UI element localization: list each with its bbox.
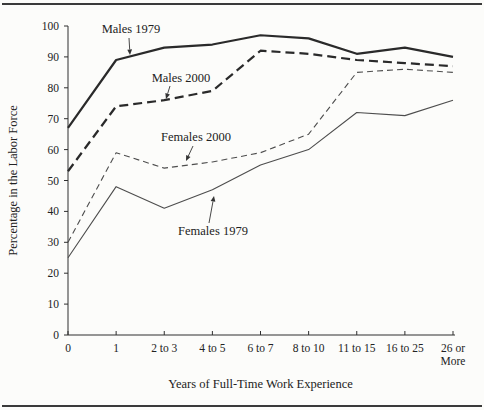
x-tick-label: More <box>441 355 466 367</box>
y-tick-label: 30 <box>48 236 60 248</box>
x-axis-title: Years of Full-Time Work Experience <box>168 377 353 391</box>
labor-force-participation-chart: 0102030405060708090100012 to 34 to 56 to… <box>0 0 484 410</box>
annotation-arrow-line <box>129 38 130 50</box>
bottom-rule <box>2 405 482 407</box>
x-tick-label: 4 to 5 <box>199 342 225 354</box>
labor-force-figure: 0102030405060708090100012 to 34 to 56 to… <box>0 0 484 410</box>
y-tick-label: 0 <box>53 329 59 341</box>
y-axis-title: Percentage in the Labor Force <box>6 105 20 256</box>
x-tick-label: 26 or <box>441 342 465 354</box>
y-tick-label: 40 <box>48 205 60 217</box>
y-tick-label: 70 <box>48 113 60 125</box>
y-tick-label: 80 <box>48 82 60 94</box>
x-tick-label: 6 to 7 <box>247 342 273 354</box>
y-tick-label: 20 <box>48 267 60 279</box>
series-line-females-2000 <box>68 69 453 242</box>
series-line-males-1979 <box>68 35 453 128</box>
y-tick-label: 90 <box>48 51 60 63</box>
annotation-label-males-2000: Males 2000 <box>152 71 211 85</box>
series-line-males-2000 <box>68 51 453 172</box>
x-tick-label: 0 <box>65 342 71 354</box>
y-tick-label: 10 <box>48 298 60 310</box>
annotation-label-females-1979: Females 1979 <box>178 224 248 238</box>
x-tick-label: 16 to 25 <box>386 342 424 354</box>
y-tick-label: 50 <box>48 175 60 187</box>
x-tick-label: 8 to 10 <box>293 342 325 354</box>
annotation-arrowhead <box>211 196 216 202</box>
series-line-females-1979 <box>68 100 453 258</box>
y-tick-label: 60 <box>48 144 60 156</box>
annotation-arrowhead <box>127 49 132 55</box>
annotation-arrow-line <box>188 146 193 156</box>
x-tick-label: 11 to 15 <box>338 342 376 354</box>
annotation-label-females-2000: Females 2000 <box>161 130 231 144</box>
annotation-arrow-line <box>168 86 170 94</box>
annotation-label-males-1979: Males 1979 <box>102 22 161 36</box>
x-tick-label: 1 <box>113 342 119 354</box>
annotation-arrow-line <box>209 201 213 223</box>
x-tick-label: 2 to 3 <box>151 342 177 354</box>
y-tick-label: 100 <box>42 20 60 32</box>
